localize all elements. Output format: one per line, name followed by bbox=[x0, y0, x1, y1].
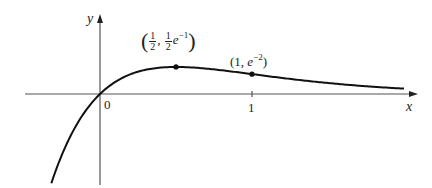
close-paren: ) bbox=[188, 28, 195, 53]
fraction-half: 12 bbox=[149, 31, 156, 52]
numerator: 1 bbox=[165, 31, 172, 42]
y-axis-label: y bbox=[87, 12, 93, 26]
open-text: (1, bbox=[230, 54, 247, 69]
denominator: 2 bbox=[165, 42, 172, 52]
x-axis-label: x bbox=[406, 100, 412, 114]
exponent: −1 bbox=[179, 30, 189, 40]
point-one-label: (1, e−2) bbox=[230, 53, 267, 68]
x-axis-arrow-icon bbox=[409, 91, 418, 97]
function-curve bbox=[51, 67, 404, 183]
point-marker bbox=[173, 64, 178, 69]
origin-label: 0 bbox=[104, 98, 111, 111]
fraction-half-2: 12 bbox=[165, 31, 172, 52]
exponent: −2 bbox=[253, 52, 263, 62]
numerator: 1 bbox=[149, 31, 156, 42]
axes bbox=[25, 14, 418, 185]
y-axis-arrow-icon bbox=[97, 14, 103, 23]
comma: , bbox=[157, 32, 160, 47]
close-paren: ) bbox=[263, 54, 267, 69]
point-marker bbox=[249, 72, 254, 77]
denominator: 2 bbox=[149, 42, 156, 52]
tick-label-one: 1 bbox=[248, 101, 255, 114]
max-point-label: (12, 12e−1) bbox=[141, 30, 196, 52]
open-paren: ( bbox=[141, 28, 148, 53]
function-plot bbox=[0, 0, 432, 188]
